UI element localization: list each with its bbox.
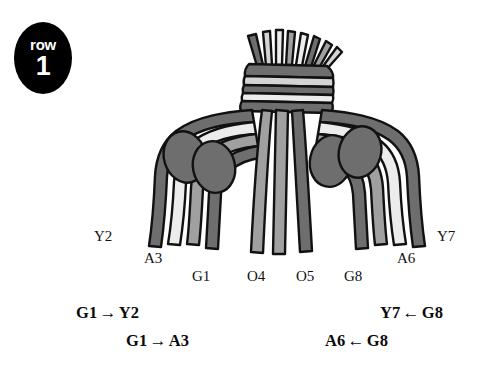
- quipu-figure: row 1 Y2 A3 G1 O4 O5 G8 A6 Y7 G1→Y2 G1→A…: [0, 0, 501, 371]
- cord-label-O4: O4: [247, 268, 265, 285]
- relation-g1-y2-to: Y2: [119, 303, 140, 322]
- relation-y7-g8-from: Y7: [380, 303, 401, 322]
- relation-y7-g8: Y7←G8: [380, 303, 443, 323]
- cord-label-Y2: Y2: [94, 228, 112, 245]
- relation-a6-g8-from: A6: [325, 331, 346, 350]
- cord-end-3: [276, 30, 283, 65]
- relation-a6-g8-to: G8: [367, 331, 388, 350]
- arrow-left-icon: ←: [346, 331, 367, 350]
- cord-group-center: [251, 110, 312, 254]
- cord-end-1: [248, 34, 263, 66]
- relation-a6-g8: A6←G8: [325, 331, 388, 351]
- row-badge: row 1: [14, 22, 72, 94]
- arrow-right-icon: →: [147, 331, 168, 350]
- cord-label-G8: G8: [344, 268, 362, 285]
- cord-label-A6: A6: [397, 250, 415, 267]
- primary-cord-collar: [240, 64, 333, 113]
- relation-y7-g8-to: G8: [422, 303, 443, 322]
- relation-g1-a3: G1→A3: [126, 331, 189, 351]
- cord-center-right: [292, 110, 312, 252]
- cord-label-A3: A3: [144, 250, 162, 267]
- cord-label-Y7: Y7: [437, 228, 455, 245]
- relation-g1-y2: G1→Y2: [76, 303, 139, 323]
- cord-label-O5: O5: [296, 268, 314, 285]
- cord-end-2: [263, 31, 272, 66]
- arrow-right-icon: →: [97, 303, 118, 322]
- cord-end-4: [286, 31, 295, 65]
- row-badge-word: row: [30, 37, 56, 52]
- arrow-left-icon: ←: [401, 303, 422, 322]
- row-badge-number: 1: [36, 53, 51, 80]
- relation-g1-a3-to: A3: [169, 331, 190, 350]
- cord-O5: [273, 110, 288, 254]
- relation-g1-a3-from: G1: [126, 331, 147, 350]
- cord-label-G1: G1: [192, 268, 210, 285]
- relation-g1-y2-from: G1: [76, 303, 97, 322]
